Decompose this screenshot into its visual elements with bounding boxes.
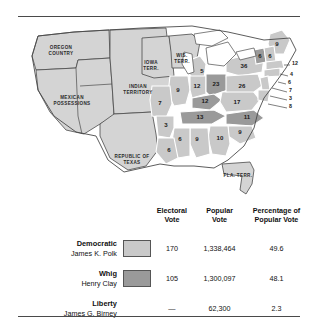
table-header-row: Electoral Vote Popular Vote Percentage o…: [14, 206, 306, 233]
percentage-value: 49.6: [247, 233, 306, 263]
state-south-carolina: [228, 126, 256, 144]
table-row: WhigHenry Clay1051,300,09748.1: [14, 263, 306, 293]
bottom-divider-rule: [18, 316, 300, 317]
state-new-jersey: [260, 76, 270, 90]
map-label-florida-territory: FLA. TERR.: [224, 173, 253, 178]
header-swatch: [122, 206, 152, 233]
party-cell: DemocraticJames K. Polk: [14, 233, 122, 263]
popular-vote-value: 62,300: [192, 293, 247, 323]
legend-swatch-cell: [122, 233, 152, 263]
party-name: Democratic: [14, 239, 117, 249]
percentage-value: 48.1: [247, 263, 306, 293]
electoral-votes-kentucky: 12: [202, 97, 209, 104]
state-georgia: [208, 126, 230, 156]
map-label-wisconsin-territory: WIS.: [176, 53, 187, 58]
legend-swatch: [123, 240, 151, 257]
party-cell: WhigHenry Clay: [14, 263, 122, 293]
electoral-votes-maryland: 8: [289, 103, 292, 109]
header-percentage-line2: Popular Vote: [247, 215, 306, 224]
popular-vote-value: 1,338,464: [192, 233, 247, 263]
header-popular-line1: Popular: [192, 206, 247, 215]
header-electoral-line2: Vote: [152, 215, 193, 224]
popular-vote-value: 1,300,097: [192, 263, 247, 293]
map-label-iowa-territory: IOWA: [144, 60, 158, 65]
electoral-votes-indiana: 12: [194, 82, 201, 89]
electoral-votes-massachusetts: 12: [292, 60, 298, 66]
header-party: [14, 206, 122, 233]
header-popular-line2: Vote: [192, 215, 247, 224]
electoral-vote-value: 105: [152, 263, 193, 293]
party-name: Liberty: [14, 299, 117, 309]
map-label-mexican-possessions: MEXICAN: [60, 95, 84, 100]
electoral-votes-ohio: 23: [213, 80, 220, 87]
region-florida-territory: [222, 162, 254, 194]
table-row: LibertyJames G. Birney—62,3002.3: [14, 293, 306, 323]
electoral-vote-value: 170: [152, 233, 193, 263]
candidate-name: James K. Polk: [14, 249, 117, 258]
electoral-votes-georgia: 10: [217, 134, 224, 141]
map-label-oregon-country: OREGON: [50, 45, 73, 50]
state-connecticut-rhode-island: [264, 68, 280, 77]
electoral-votes-rhode-island: 4: [290, 71, 293, 77]
electoral-votes-new-jersey: 7: [289, 87, 292, 93]
electoral-votes-virginia: 17: [234, 98, 241, 105]
electoral-votes-new-york: 36: [241, 62, 248, 69]
candidate-name: Henry Clay: [14, 279, 117, 288]
electoral-votes-delaware: 3: [289, 95, 292, 101]
electoral-votes-tennessee: 13: [197, 113, 204, 120]
header-percentage-line1: Percentage of: [247, 206, 306, 215]
top-divider-rule: [18, 16, 300, 17]
map-label-indian-territory: TERRITORY: [123, 90, 152, 95]
election-results-table: Electoral Vote Popular Vote Percentage o…: [14, 206, 306, 310]
electoral-votes-north-carolina: 11: [244, 113, 251, 120]
map-label-wisconsin-territory: TERR.: [174, 59, 190, 64]
legend-swatch: [123, 270, 151, 287]
legend-swatch-cell: [122, 263, 152, 293]
map-label-indian-territory: INDIAN: [129, 84, 147, 89]
map-label-republic-of-texas: REPUBLIC OF: [115, 154, 150, 159]
electoral-votes-connecticut: 6: [288, 79, 291, 85]
map-label-mexican-possessions: POSSESSIONS: [53, 101, 90, 106]
legend-swatch-cell: [122, 293, 152, 323]
map-leader-number-group: 1246738: [288, 60, 298, 109]
electoral-vote-value: —: [152, 293, 193, 323]
party-cell: LibertyJames G. Birney: [14, 293, 122, 323]
party-name: Whig: [14, 269, 117, 279]
header-electoral-vote: Electoral Vote: [152, 206, 193, 233]
percentage-value: 2.3: [247, 293, 306, 323]
header-popular-vote: Popular Vote: [192, 206, 247, 233]
header-electoral-line1: Electoral: [152, 206, 193, 215]
header-percentage: Percentage of Popular Vote: [247, 206, 306, 233]
table-row: DemocraticJames K. Polk1701,338,46449.6: [14, 233, 306, 263]
region-iowa-territory: [142, 36, 174, 78]
map-label-iowa-territory: TERR.: [143, 66, 159, 71]
state-alabama: [190, 128, 210, 158]
electoral-votes-pennsylvania: 26: [239, 82, 246, 89]
map-label-republic-of-texas: TEXAS: [123, 160, 140, 165]
map-label-oregon-country: COUNTRY: [49, 51, 74, 56]
election-map-1844: OREGONCOUNTRYMEXICANPOSSESSIONSINDIANTER…: [14, 24, 306, 202]
